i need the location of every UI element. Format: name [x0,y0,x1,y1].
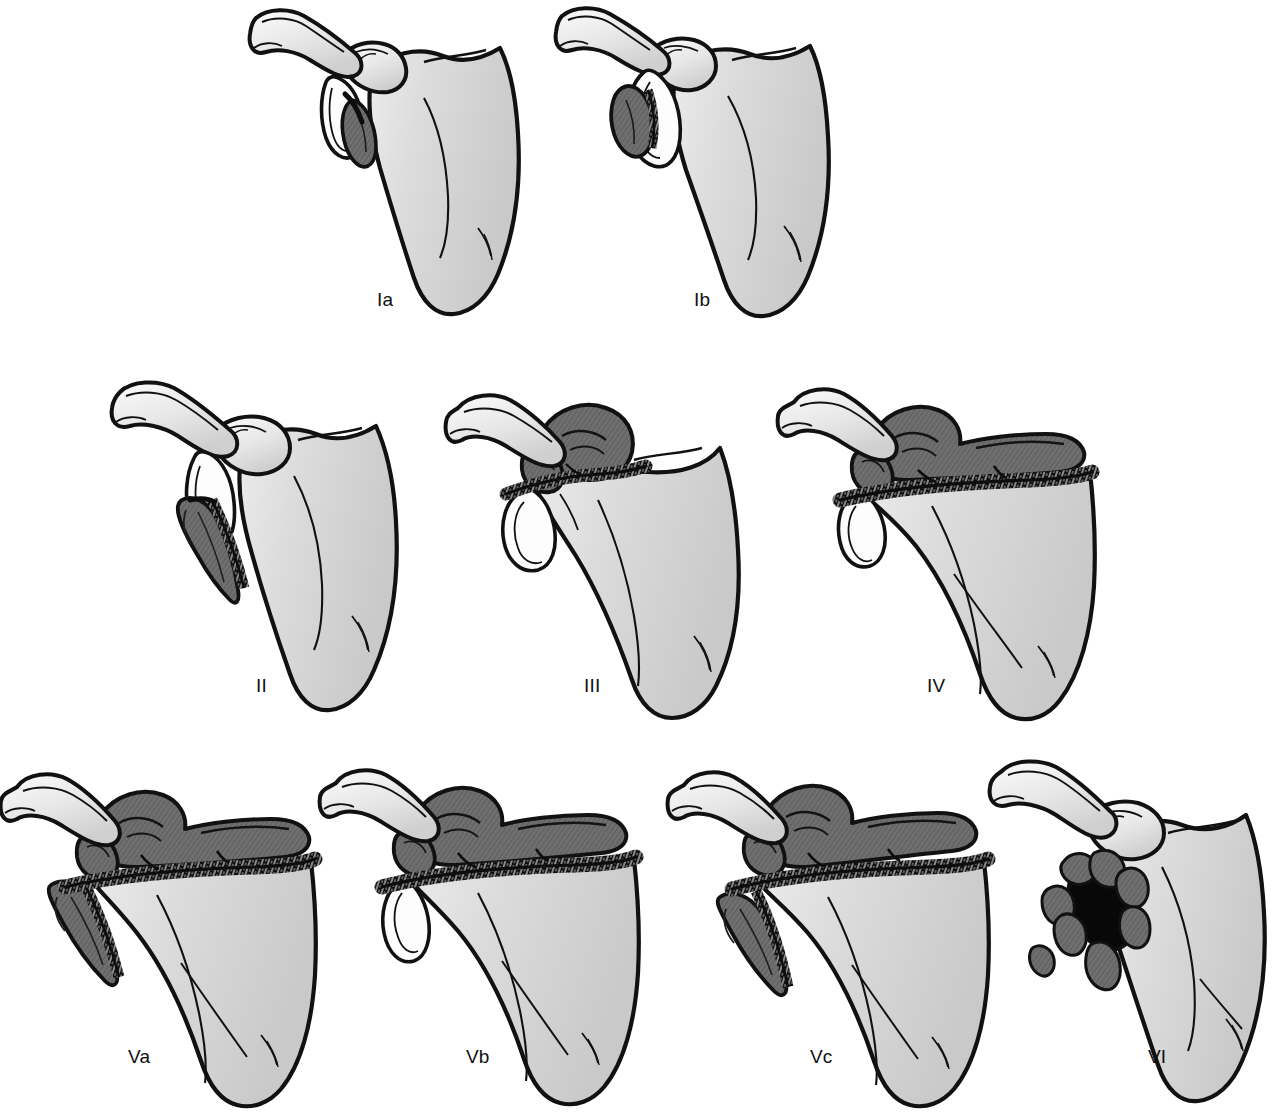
panel-label-IV: IV [927,676,945,695]
panel-III[interactable]: III [448,378,768,718]
scapula-body [860,472,1095,719]
figure-canvas: Ia [0,0,1276,1117]
scapula-body [89,861,316,1106]
panel-Vb[interactable]: Vb [330,757,660,1107]
scapula-diagram-Vb [330,757,660,1107]
panel-label-VI: VI [1148,1047,1166,1066]
panel-label-III: III [584,676,600,695]
scapula-diagram-Ia [248,6,548,326]
scapula-diagram-Va [5,757,335,1107]
clavicle [778,389,897,460]
scapula-diagram-Ib [556,6,856,326]
panel-VI[interactable]: VI [990,757,1276,1107]
scapula-body [536,448,739,718]
scapula-diagram-IV [790,378,1120,718]
panel-Va[interactable]: Va [5,757,335,1107]
clavicle [556,8,670,75]
superior-fragment [95,792,309,867]
panel-label-Va: Va [128,1047,150,1066]
panel-label-Vc: Vc [810,1047,833,1066]
scapula-diagram-Vc [672,757,1012,1107]
panel-label-II: II [256,676,267,695]
panel-Ia[interactable]: Ia [248,6,548,326]
clavicle [446,395,565,466]
superior-fragment [870,407,1084,480]
panel-Ib[interactable]: Ib [556,6,856,326]
panel-label-Ia: Ia [377,290,393,309]
panel-IV[interactable]: IV [790,378,1120,718]
scapula-diagram-VI [990,757,1276,1107]
scapula-diagram-III [448,378,768,718]
panel-label-Vb: Vb [466,1047,490,1066]
clavicle [990,761,1117,837]
clavicle [320,770,439,841]
superior-fragment [762,786,976,867]
scapula-diagram-II [112,378,432,718]
scapula-body [406,859,639,1104]
superior-fragment [412,788,626,865]
panel-Vc[interactable]: Vc [672,757,1012,1107]
clavicle [668,772,787,843]
panel-II[interactable]: II [112,378,432,718]
clavicle [112,382,238,456]
clavicle [1,774,120,845]
clavicle [250,10,362,77]
panel-label-Ib: Ib [694,290,710,309]
